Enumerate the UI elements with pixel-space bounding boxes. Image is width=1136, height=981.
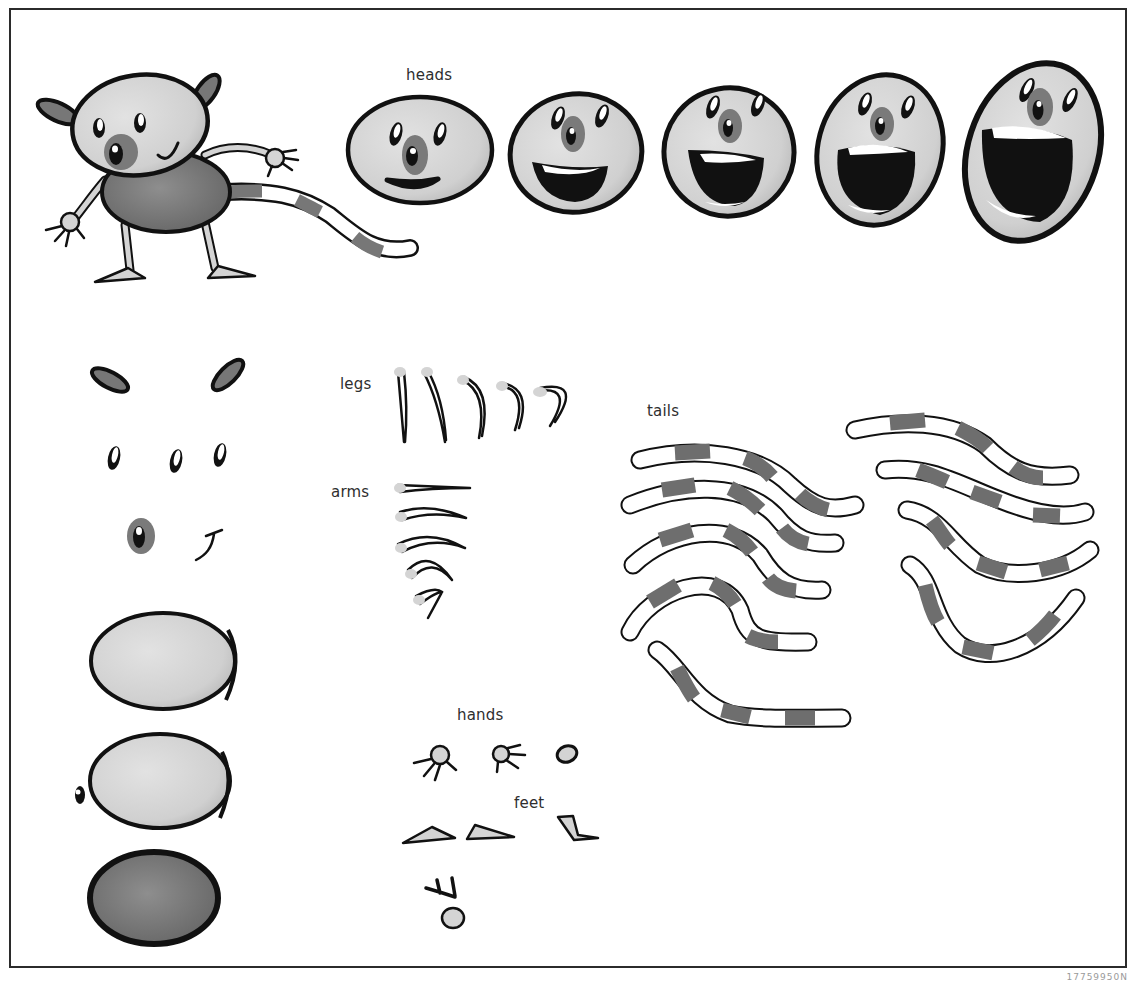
character-left-hand (46, 213, 84, 246)
misc-parts-group (426, 878, 464, 928)
label-hands: hands (457, 706, 504, 724)
nose-mouth-group (127, 518, 222, 560)
hands-group (414, 743, 579, 780)
tails-group (630, 420, 1090, 718)
label-feet: feet (514, 794, 544, 812)
label-legs: legs (340, 375, 372, 393)
label-tails: tails (647, 402, 679, 420)
footer-id-code: 17759950N (1066, 972, 1128, 981)
label-arms: arms (331, 483, 369, 501)
head-variant-1 (348, 97, 492, 203)
character-tail (225, 191, 410, 252)
ears-group (89, 355, 248, 396)
tail-5 (657, 650, 842, 718)
head-variant-5 (943, 45, 1123, 258)
head-variant-4 (800, 61, 959, 240)
head-variant-3 (654, 78, 804, 227)
head-variant-2 (501, 83, 651, 222)
feet-group (403, 816, 598, 843)
legs-group (394, 367, 566, 442)
body-shapes-group (75, 613, 236, 944)
label-heads: heads (406, 66, 452, 84)
character-right-hand (266, 149, 298, 176)
heads-group (348, 45, 1123, 258)
eyes-group (106, 442, 229, 474)
arms-group (394, 483, 470, 618)
artwork-canvas (0, 0, 1136, 981)
